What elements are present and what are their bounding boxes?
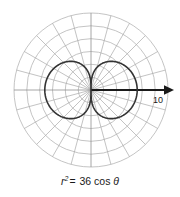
polar-plot-figure: 10 r2= 36 cos θ: [0, 0, 180, 197]
caption-function: cos: [94, 175, 110, 187]
grid-ray-120: [53, 23, 92, 90]
figure-caption: r2= 36 cos θ: [0, 176, 180, 187]
caption-angle: θ: [113, 175, 119, 187]
grid-ray-150: [24, 52, 91, 91]
caption-equals: =: [68, 175, 76, 187]
grid-ray-240: [53, 90, 92, 157]
grid-ray-60: [91, 23, 130, 90]
grid-ray-210: [24, 90, 91, 129]
axis-tick-label-10: 10: [153, 96, 163, 105]
grid-ray-330: [91, 90, 158, 129]
grid-ray-300: [91, 90, 130, 157]
polar-axis-arrow-head: [164, 85, 174, 95]
grid-ray-30: [91, 52, 158, 91]
caption-coefficient: 36: [79, 175, 91, 187]
